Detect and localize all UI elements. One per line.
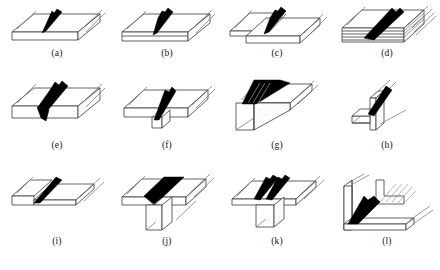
figure-caption-j: (j) [114, 236, 220, 247]
figure-caption-b: (b) [114, 48, 220, 59]
figure-panel-h: (h) [334, 76, 440, 158]
figure-panel-f: (f) [114, 76, 220, 158]
figure-panel-g: (g) [224, 76, 330, 158]
figure-caption-g: (g) [224, 140, 330, 151]
joint-drawing-j [114, 172, 220, 238]
figure-caption-f: (f) [114, 140, 220, 151]
inset-section-detail-l [376, 180, 416, 205]
figure-caption-l: (l) [334, 236, 440, 247]
joint-drawing-f [114, 76, 220, 142]
figure-caption-a: (a) [4, 48, 110, 59]
flange-plate-h [352, 109, 370, 123]
figure-caption-k: (k) [224, 236, 330, 247]
figure-caption-d: (d) [334, 48, 440, 59]
joint-drawing-g [224, 76, 330, 142]
welding-joint-figure-sheet: (a) (b) [0, 0, 440, 270]
figure-caption-i: (i) [4, 236, 110, 247]
figure-panel-j: (j) [114, 172, 220, 254]
figure-panel-k: (k) [224, 172, 330, 254]
figure-panel-l: (l) [334, 172, 440, 254]
joint-drawing-i [4, 172, 110, 238]
figure-panel-d: (d) [334, 2, 440, 64]
vertical-plate-g [236, 103, 290, 130]
figure-caption-e: (e) [4, 140, 110, 151]
figure-panel-c: (c) [224, 2, 330, 64]
figure-caption-c: (c) [224, 48, 330, 59]
figure-panel-b: (b) [114, 2, 220, 64]
figure-panel-i: (i) [4, 172, 110, 254]
figure-panel-a: (a) [4, 2, 110, 64]
joint-drawing-d [334, 2, 440, 50]
figure-caption-h: (h) [334, 140, 440, 151]
joint-drawing-a [4, 2, 110, 50]
joint-drawing-k [224, 172, 330, 238]
figure-panel-e: (e) [4, 76, 110, 158]
joint-drawing-c [224, 2, 330, 50]
joint-drawing-h [334, 76, 440, 142]
joint-drawing-b [114, 2, 220, 50]
joint-drawing-e [4, 76, 110, 142]
joint-drawing-l [334, 172, 440, 238]
